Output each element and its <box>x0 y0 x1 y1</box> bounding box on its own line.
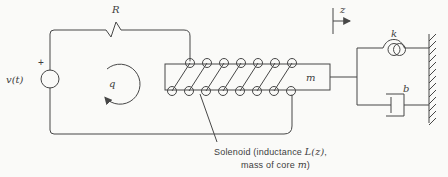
spring-symbol: k <box>357 28 429 56</box>
damper-label: b <box>403 83 409 94</box>
charge-label: q <box>109 78 115 89</box>
caption-line-1: Solenoid (inductance L(z), <box>214 146 327 157</box>
z-axis-label: z <box>339 4 346 15</box>
caption-line-2: mass of core m) <box>241 159 310 170</box>
solenoid: m <box>165 59 330 96</box>
solenoid-system-figure: v(t) + R q m <box>0 0 448 177</box>
mechanical-assembly: k b <box>330 28 436 125</box>
coil-turn-bottom <box>287 87 296 96</box>
wall-hatching <box>429 34 436 125</box>
polarity-plus-sign: + <box>38 57 44 68</box>
caption-leader-line <box>200 94 217 142</box>
z-axis-marker: z <box>333 4 350 34</box>
fixed-wall <box>429 34 436 125</box>
resistor-label: R <box>111 4 120 15</box>
circuit-loop: v(t) + R q <box>6 4 292 134</box>
circuit-wire-top <box>50 22 190 70</box>
voltage-source-label: v(t) <box>6 74 24 85</box>
spring-label: k <box>391 28 397 39</box>
caption: Solenoid (inductance L(z), mass of core … <box>200 94 327 170</box>
voltage-source <box>41 70 59 88</box>
core-mass-label: m <box>306 72 315 83</box>
diagram-canvas: v(t) + R q m <box>0 0 448 177</box>
damper-symbol: b <box>357 83 429 116</box>
